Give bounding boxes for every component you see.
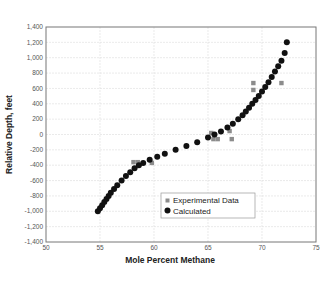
calculated-point — [154, 154, 160, 160]
y-tick-label: -800 — [30, 192, 43, 199]
x-tick-label: 65 — [204, 244, 212, 251]
x-tick-label: 75 — [312, 244, 320, 251]
calculated-point — [282, 50, 288, 56]
calculated-point — [272, 69, 278, 75]
y-tick-label: 1,200 — [27, 39, 44, 46]
legend: Experimental Data Calculated — [161, 193, 255, 218]
x-axis-ticks: 505560657075 — [42, 244, 320, 251]
x-tick-label: 60 — [150, 244, 158, 251]
y-tick-label: 800 — [32, 69, 43, 76]
calculated-point — [218, 128, 224, 134]
x-axis-label: Mole Percent Methane — [125, 255, 215, 265]
experimental-point — [131, 160, 135, 164]
calculated-point — [147, 157, 153, 163]
y-tick-label: 400 — [32, 100, 43, 107]
experimental-point — [251, 88, 255, 92]
calculated-point — [224, 125, 230, 131]
y-tick-label: -1,200 — [25, 223, 44, 230]
experimental-point — [230, 137, 234, 141]
y-tick-label: 200 — [32, 115, 43, 122]
x-tick-label: 50 — [42, 244, 50, 251]
calculated-point — [211, 132, 217, 138]
scatter-chart: -1,400-1,200-1,000-800-600-400-200020040… — [0, 0, 335, 281]
calculated-point — [114, 182, 120, 188]
experimental-point — [279, 81, 283, 85]
calculated-point — [205, 135, 211, 141]
y-tick-label: -400 — [30, 161, 43, 168]
calculated-point — [183, 143, 189, 149]
calculated-point — [140, 160, 146, 166]
calculated-point — [194, 139, 200, 145]
calculated-point — [278, 58, 284, 64]
calculated-point — [162, 151, 168, 157]
y-tick-label: 1,400 — [27, 23, 44, 30]
y-tick-label: -1,000 — [25, 207, 44, 214]
circle-marker-icon — [165, 208, 171, 214]
y-tick-label: -200 — [30, 146, 43, 153]
calculated-point — [173, 147, 179, 153]
calculated-point — [284, 39, 290, 45]
calculated-point — [275, 63, 281, 69]
y-axis-label: Relative Depth, feet — [4, 95, 14, 174]
square-marker-icon — [166, 199, 170, 203]
y-tick-label: 1,000 — [27, 54, 44, 61]
experimental-point — [251, 81, 255, 85]
x-tick-label: 55 — [96, 244, 104, 251]
calculated-point — [119, 178, 125, 184]
y-tick-label: 600 — [32, 85, 43, 92]
legend-item-calculated: Calculated — [173, 207, 211, 216]
y-tick-label: 0 — [39, 131, 43, 138]
calculated-series — [95, 39, 290, 214]
legend-item-experimental: Experimental Data — [173, 196, 239, 205]
experimental-point — [216, 137, 220, 141]
calculated-point — [265, 79, 271, 85]
calculated-point — [269, 74, 275, 80]
y-axis-ticks: -1,400-1,200-1,000-800-600-400-200020040… — [25, 23, 44, 245]
y-tick-label: -1,400 — [25, 238, 44, 245]
calculated-point — [230, 121, 236, 127]
x-tick-label: 70 — [258, 244, 266, 251]
experimental-point — [211, 137, 215, 141]
y-tick-label: -600 — [30, 177, 43, 184]
